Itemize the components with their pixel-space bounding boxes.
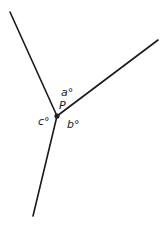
angle-label-a: a° [61, 86, 73, 99]
lower-ray [33, 116, 57, 216]
angles-diagram: a° P c° b° [0, 0, 163, 229]
angle-label-c: c° [38, 115, 50, 128]
upper-right-ray [57, 40, 158, 116]
angle-label-b: b° [67, 118, 79, 131]
vertex-point [54, 113, 59, 118]
upper-left-ray [10, 12, 57, 116]
vertex-label-p: P [59, 99, 66, 112]
